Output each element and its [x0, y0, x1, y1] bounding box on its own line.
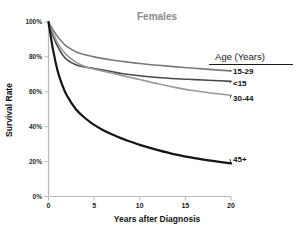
y-tick-label: 20%: [29, 158, 42, 165]
series-curve-30-44: [49, 22, 232, 95]
series-labels: 15-29<1530-4445+: [233, 67, 254, 164]
x-axis-title: Years after Diagnosis: [114, 214, 201, 224]
legend-title: Age (Years): [215, 51, 265, 62]
y-axis-title: Survival Rate: [4, 83, 14, 137]
series-curves: [49, 22, 232, 163]
series-curve-15-29: [49, 22, 232, 71]
series-label--15: <15: [233, 79, 247, 88]
x-tick-label: 0: [47, 202, 51, 209]
y-tick-label: 60%: [29, 88, 42, 95]
y-tick-label: 40%: [29, 123, 42, 130]
y-tick-label: 100%: [25, 18, 42, 25]
survival-curve-chart: Females 0%20%40%60%80%100% 05101520 Year…: [0, 0, 298, 229]
chart-title: Females: [137, 11, 177, 22]
series-label-15-29: 15-29: [233, 67, 254, 76]
series-leader-lines: [230, 71, 231, 163]
y-tick-label: 80%: [29, 53, 42, 60]
x-tick-label: 15: [181, 202, 189, 209]
series-label-30-44: 30-44: [233, 94, 254, 103]
y-tick-label: 0%: [33, 193, 43, 200]
x-tick-label: 5: [92, 202, 96, 209]
chart-figure: Females 0%20%40%60%80%100% 05101520 Year…: [0, 0, 298, 229]
x-axis-ticks: 05101520: [47, 197, 235, 210]
y-axis-ticks: 0%20%40%60%80%100%: [25, 18, 48, 200]
x-tick-label: 10: [136, 202, 144, 209]
x-tick-label: 20: [227, 202, 235, 209]
series-label-45-: 45+: [233, 155, 247, 164]
